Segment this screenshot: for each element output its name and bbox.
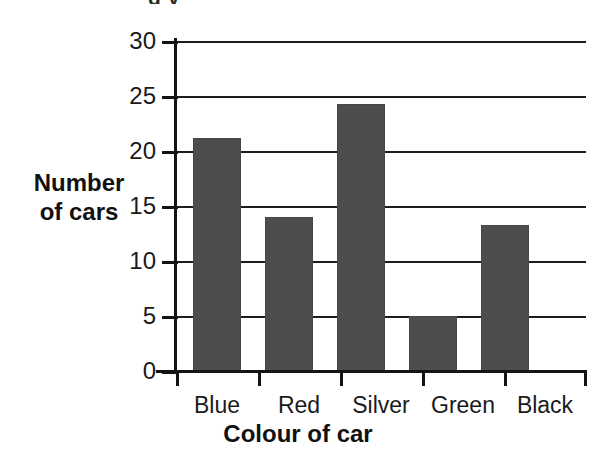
bar-blue (193, 138, 241, 371)
bar-black (481, 225, 529, 371)
x-category-label-black: Black (504, 392, 586, 418)
gridline-25 (176, 96, 586, 98)
y-tick-label-30: 30 (108, 29, 156, 53)
x-tick-4 (504, 370, 507, 386)
x-axis-title: Colour of car (0, 420, 596, 447)
y-tick-label-25: 25 (108, 84, 156, 108)
y-tick-15 (162, 206, 178, 209)
x-tick-5 (584, 370, 587, 386)
y-tick-10 (162, 261, 178, 264)
y-axis-title-line-1: Number (8, 168, 150, 197)
x-tick-1 (258, 370, 261, 386)
x-tick-3 (422, 370, 425, 386)
bar-green (409, 316, 457, 371)
x-category-label-blue: Blue (176, 392, 258, 418)
y-tick-label-0: 0 (108, 359, 156, 383)
bar-chart-figure: g y 30 25 20 15 10 5 0 Blue Red Silver G… (0, 0, 596, 450)
x-category-label-red: Red (258, 392, 340, 418)
cropped-title-remnant: g y (148, 0, 408, 4)
bar-silver (337, 104, 385, 371)
y-axis-title: Number of cars (8, 168, 150, 226)
x-axis-line (156, 370, 586, 373)
x-tick-0 (176, 370, 179, 386)
gridline-30 (176, 41, 586, 43)
x-category-label-green: Green (422, 392, 504, 418)
y-tick-20 (162, 151, 178, 154)
y-tick-label-10: 10 (108, 249, 156, 273)
x-tick-2 (340, 370, 343, 386)
x-category-label-silver: Silver (340, 392, 422, 418)
y-tick-25 (162, 96, 178, 99)
y-axis-title-line-2: of cars (8, 197, 150, 226)
y-tick-30 (162, 41, 178, 44)
y-tick-5 (162, 316, 178, 319)
y-tick-label-20: 20 (108, 139, 156, 163)
y-tick-label-5: 5 (108, 304, 156, 328)
bar-red (265, 217, 313, 371)
